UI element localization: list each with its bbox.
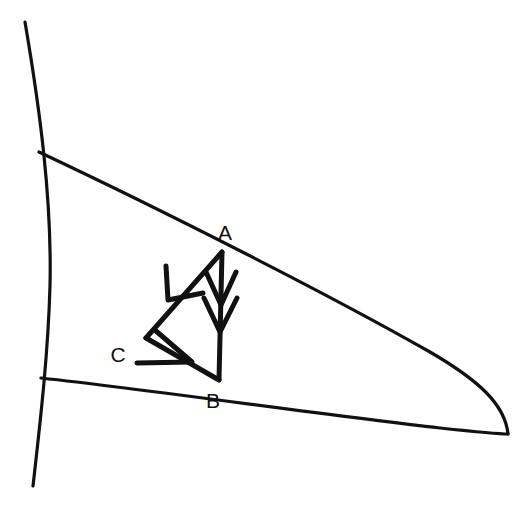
- wing-vector-diagram: A B C: [0, 0, 527, 508]
- vertex-label-b: B: [206, 389, 220, 412]
- vertex-label-c: C: [110, 343, 125, 366]
- wing-upper-edge-line: [39, 152, 508, 434]
- wing-outline-group: [25, 22, 508, 486]
- diagram-canvas: A B C: [0, 0, 527, 508]
- vector-a-to-b-shaft: [219, 252, 222, 380]
- vertex-label-a: A: [218, 221, 232, 244]
- vector-triangle-group: [137, 252, 237, 380]
- vector-c-to-b-shaft: [146, 338, 219, 380]
- wing-lower-edge-line: [41, 378, 508, 434]
- vector-a-to-c: [146, 252, 222, 338]
- vector-a-to-b: [204, 252, 237, 380]
- fuselage-curve-line: [25, 22, 50, 486]
- vector-c-to-b: [137, 331, 219, 380]
